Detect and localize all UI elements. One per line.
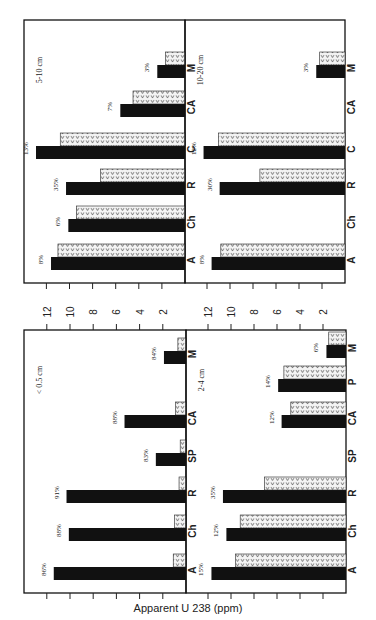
category-label: A [346, 256, 357, 263]
bar-solid [326, 345, 346, 358]
panel-p-2-4: 2-4 cmA15%Ch12%R35%SPCA12%P14%M6% [186, 330, 358, 593]
bar-solid [69, 528, 186, 541]
category-label: Ch [186, 215, 197, 228]
percent-label: 3% [302, 63, 310, 73]
category-label: CA [186, 100, 197, 114]
category-label: CA [346, 100, 357, 114]
percent-label: 84% [150, 347, 158, 360]
tick-label: 12 [42, 306, 53, 318]
category-label: A [187, 566, 198, 573]
bar-hatched [101, 169, 185, 182]
bar-solid [220, 182, 345, 195]
tick-label: 10 [65, 306, 76, 318]
category-label: Ch [347, 524, 358, 537]
percent-label: 30% [206, 178, 214, 191]
bar-solid [278, 379, 346, 392]
bar-hatched [180, 440, 186, 453]
bar-hatched [291, 402, 346, 415]
panel-title: 2-4 cm [197, 368, 206, 391]
percent-label: 7% [106, 102, 114, 112]
category-label: M [187, 350, 198, 358]
tick-label: 6 [272, 309, 283, 315]
percent-label: 91% [53, 486, 61, 499]
bar-hatched [329, 332, 346, 345]
panel-title: 5-10 cm [35, 56, 44, 83]
bar-solid [212, 257, 345, 270]
panel-p-10-20: 10-20 cmA8%ChR30%C12%CAM3% [185, 20, 357, 283]
value-axis-label: Apparent U 238 (ppm) [134, 602, 243, 614]
percent-label: 3% [143, 63, 151, 73]
bar-solid [125, 415, 186, 428]
tick-label: 12 [203, 306, 214, 318]
bar-hatched [284, 366, 346, 379]
category-label: Ch [346, 215, 357, 228]
percent-label: 12% [212, 524, 220, 537]
bar-solid [68, 219, 185, 232]
bar-solid [157, 65, 185, 78]
category-label: A [347, 566, 358, 573]
bar-solid [120, 104, 185, 117]
percent-label: 12% [268, 411, 276, 424]
percent-label: 35% [209, 486, 217, 499]
bar-hatched [176, 402, 186, 415]
percent-label: 13% [22, 142, 30, 155]
percent-label: 6% [54, 217, 62, 227]
bar-solid [211, 567, 346, 580]
tick-label: 10 [226, 306, 237, 318]
category-label: R [347, 489, 358, 497]
tick-label: 8 [249, 309, 260, 315]
bar-solid [54, 567, 186, 580]
category-label: CA [347, 411, 358, 425]
bar-hatched [178, 338, 186, 351]
category-label: Ch [187, 524, 198, 537]
category-label: SP [347, 449, 358, 463]
uranium-bar-chart: 5-10 cmA8%Ch6%R35%C13%CA7%M3%10-20 cmA8%… [0, 0, 376, 620]
percent-label: 12% [190, 142, 198, 155]
bar-solid [282, 415, 346, 428]
bar-hatched [58, 244, 185, 257]
bar-hatched [260, 169, 345, 182]
bar-hatched [60, 133, 185, 146]
bar-solid [66, 182, 185, 195]
tick-label: 4 [135, 309, 146, 315]
category-label: M [347, 344, 358, 352]
bar-hatched [219, 133, 346, 146]
panel-title: < 0.5 cm [35, 365, 44, 394]
bar-hatched [179, 477, 186, 490]
percent-label: 83% [142, 449, 150, 462]
bar-hatched [320, 52, 345, 65]
percent-label: 6% [312, 343, 320, 353]
percent-label: 88% [111, 411, 119, 424]
percent-label: 88% [55, 524, 63, 537]
bar-hatched [76, 206, 185, 219]
bar-solid [316, 65, 345, 78]
category-label: R [346, 181, 357, 189]
bar-hatched [221, 244, 345, 257]
tick-label: 8 [88, 309, 99, 315]
panel-p-lt-0-5: < 0.5 cmA86%Ch88%R91%SP83%CA88%M84% [24, 330, 198, 593]
bar-solid [36, 146, 185, 159]
category-label: C [346, 145, 357, 152]
bar-solid [156, 453, 186, 466]
bar-solid [204, 146, 345, 159]
tick-label: 2 [318, 309, 329, 315]
category-label: CA [187, 411, 198, 425]
bar-solid [164, 351, 186, 364]
bar-hatched [133, 91, 185, 104]
bar-solid [223, 490, 346, 503]
bar-hatched [173, 554, 186, 567]
category-label: R [186, 181, 197, 189]
bar-hatched [165, 52, 185, 65]
category-label: R [187, 489, 198, 497]
panel-p-5-10: 5-10 cmA8%Ch6%R35%C13%CA7%M3% [22, 20, 197, 283]
bar-solid [51, 257, 185, 270]
bar-hatched [240, 515, 346, 528]
category-label: M [346, 64, 357, 72]
tick-label: 4 [295, 309, 306, 315]
bar-hatched [264, 477, 346, 490]
category-label: P [347, 378, 358, 385]
tick-label: 6 [111, 309, 122, 315]
bar-hatched [174, 515, 186, 528]
bar-solid [67, 490, 186, 503]
category-label: A [186, 256, 197, 263]
